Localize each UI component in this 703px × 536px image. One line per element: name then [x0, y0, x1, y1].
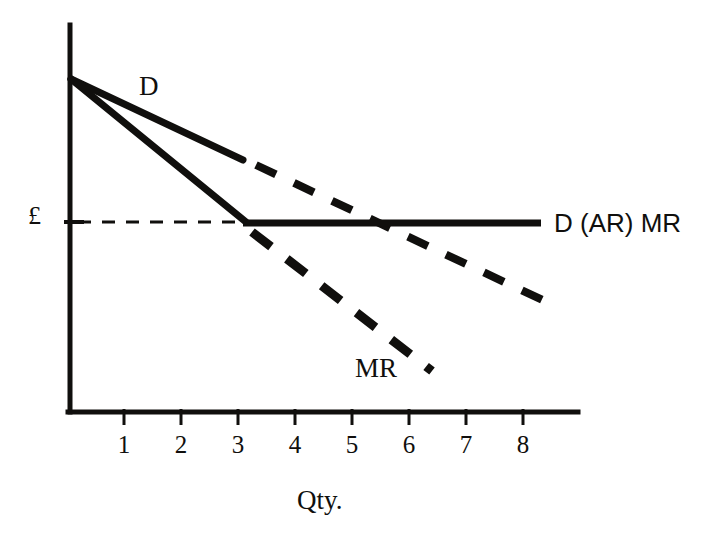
x-tick-label-1: 1: [118, 432, 131, 457]
x-tick-label-5: 5: [346, 432, 359, 457]
x-tick-label-7: 7: [460, 432, 473, 457]
y-axis-label-pound: £: [28, 203, 41, 229]
marginal-revenue-label: MR: [355, 355, 397, 382]
demand-curve-label: D: [139, 73, 159, 100]
ar-mr-series-label: D (AR) MR: [554, 210, 681, 236]
x-tick-label-4: 4: [289, 432, 302, 457]
x-tick-label-6: 6: [403, 432, 416, 457]
x-tick-label-2: 2: [175, 432, 188, 457]
x-tick-label-8: 8: [517, 432, 530, 457]
x-axis-label-qty: Qty.: [297, 487, 343, 514]
x-tick-label-3: 3: [232, 432, 245, 457]
kinked-demand-chart: £ D MR D (AR) MR Qty. 1 2 3 4 5 6 7 8: [0, 0, 703, 536]
marginal-revenue-dashed-extension: [252, 232, 432, 371]
demand-curve-dashed-extension: [256, 165, 553, 305]
